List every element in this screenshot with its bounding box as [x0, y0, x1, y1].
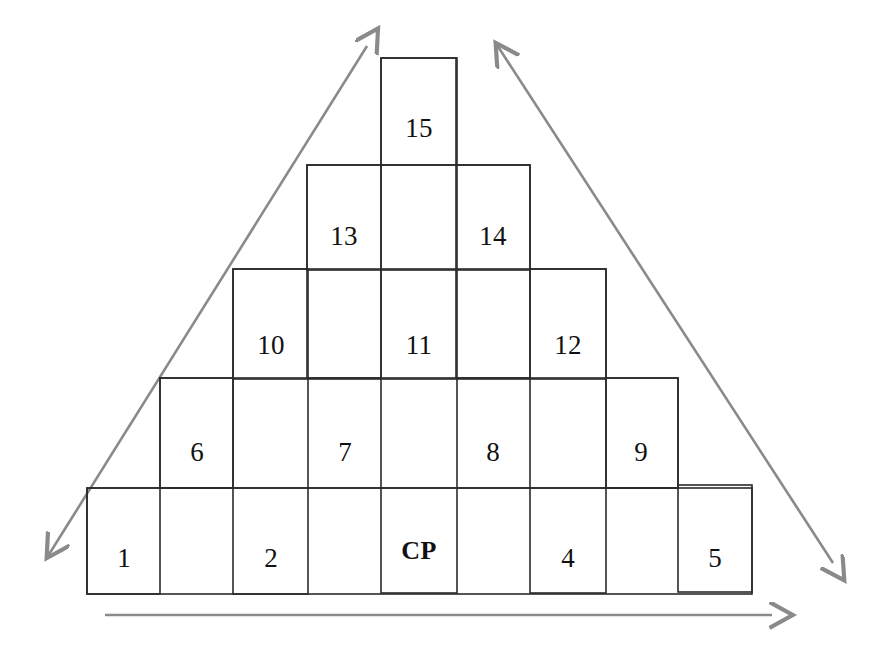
cell-label-6: 6 [190, 439, 204, 466]
cell-label-10: 10 [257, 332, 284, 359]
cell-label-2: 2 [264, 545, 278, 572]
cell-label-14: 14 [479, 223, 506, 250]
column-col-rect-14 [456, 165, 530, 378]
column-col-rect-1 [87, 488, 160, 594]
cell-label-12: 12 [554, 332, 581, 359]
cell-label-1: 1 [117, 545, 131, 572]
cell-label-9: 9 [634, 439, 648, 466]
cell-label-15: 15 [405, 115, 432, 142]
cell-label-4: 4 [561, 545, 575, 572]
column-col-rect-9 [606, 378, 678, 488]
cell-label-13: 13 [330, 223, 357, 250]
column-col-rect-5 [678, 485, 752, 592]
column-col-rect-6 [160, 378, 233, 488]
cell-label-8: 8 [486, 439, 500, 466]
cell-label-5: 5 [708, 545, 722, 572]
diagram-canvas [0, 0, 874, 662]
column-col-rect-13 [307, 165, 381, 378]
cell-label-7: 7 [338, 439, 352, 466]
pyramid-diagram: 12CP456789101112131415 [0, 0, 874, 662]
cell-label-cp: CP [401, 538, 437, 564]
cell-label-11: 11 [406, 332, 432, 359]
